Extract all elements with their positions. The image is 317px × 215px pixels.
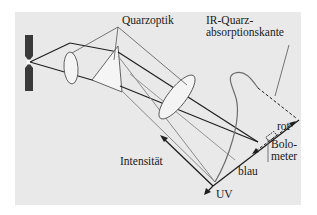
intensity-arrow-icon — [160, 135, 213, 186]
label-quarzoptik: Quarzoptik — [122, 14, 174, 26]
label-ir-line1: IR-Quarz- — [206, 14, 253, 26]
label-bolometer-line1: Bolo- — [271, 138, 297, 150]
incident-beam — [30, 43, 92, 80]
label-rot: rot — [277, 120, 290, 132]
collimator-lens-icon — [63, 52, 79, 85]
quarzoptik-leaders — [72, 27, 187, 85]
label-uv: UV — [216, 188, 233, 200]
ir-leader — [275, 45, 289, 96]
quartz-prism-icon — [92, 46, 122, 92]
label-bolometer-line2: meter — [271, 150, 297, 162]
uv-arrow-icon — [204, 186, 213, 195]
label-ir-line2: absorptionskante — [206, 26, 284, 38]
diagram-canvas: Quarzoptik IR-Quarz- absorptionskante ro… — [0, 0, 317, 215]
label-blau: blau — [238, 165, 258, 177]
label-intensitaet: Intensität — [120, 155, 163, 167]
